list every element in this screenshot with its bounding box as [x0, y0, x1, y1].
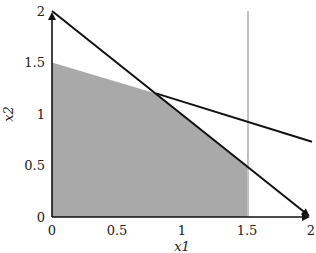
y-tick-label: 1.5 [24, 55, 45, 70]
y-tick-label: 0.5 [24, 158, 45, 173]
feasible-region [52, 63, 247, 218]
y-tick-label: 1 [37, 107, 45, 122]
x-tick-label: 2 [307, 223, 315, 238]
x-tick-label: 1.5 [237, 223, 258, 238]
x-tick-label: 0 [48, 223, 56, 238]
x-tick-label: 0.5 [107, 223, 128, 238]
chart-canvas: 0 0.5 1 1.5 2 0 0.5 1 1.5 2 x1 x2 [0, 0, 316, 253]
y-tick-label: 0 [37, 210, 45, 225]
y-axis-label: x2 [1, 106, 16, 122]
y-tick-label: 2 [37, 4, 45, 19]
x-axis-label: x1 [174, 239, 190, 253]
x-tick-label: 1 [178, 223, 186, 238]
